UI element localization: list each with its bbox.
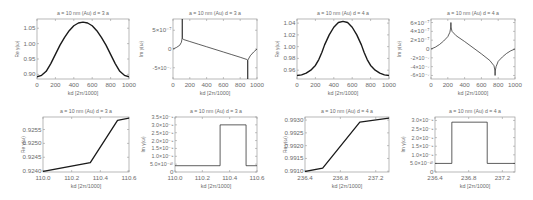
y-tick-label: 1.02 xyxy=(283,31,296,38)
y-tick-label: -2×10⁻⁷ xyxy=(411,55,430,61)
x-tick-label: 200 xyxy=(185,81,196,88)
chart-title: a = 10 nm (Au) d = 4 a xyxy=(449,108,501,114)
chart-panel-p5: a = 10 nm (Au) d = 3 a110.0110.2110.4110… xyxy=(21,108,137,189)
chart-panel-p1: a = 10 nm (Au) d = 3 a020040060080010000… xyxy=(15,10,136,96)
x-tick-label: 236.8 xyxy=(333,174,349,181)
y-tick-label: -6×10⁻⁷ xyxy=(411,72,430,78)
y-tick-label: 1.0×10⁻⁹ xyxy=(412,152,434,158)
y-tick-label: 0.95 xyxy=(23,55,36,62)
x-tick-label: 400 xyxy=(201,81,212,88)
y-tick-label: 0.9910 xyxy=(285,167,304,174)
data-series-line xyxy=(173,19,257,79)
x-tick-label: 600 xyxy=(476,81,487,88)
y-tick-label: 1.00 xyxy=(283,43,296,50)
x-tick-label: 800 xyxy=(235,81,246,88)
chart-panel-p2: a = 10 nm (Au) d = 3 a020040060080010005… xyxy=(139,10,264,96)
y-axis-label: Re γ(ω) xyxy=(275,40,280,57)
chart-title: a = 10 nm (Au) d = 3 a xyxy=(190,108,242,114)
x-tick-label: 1000 xyxy=(508,81,522,88)
plot-frame xyxy=(37,19,129,79)
x-tick-label: 110.0 xyxy=(35,174,51,181)
y-tick-label: 0 xyxy=(426,45,430,52)
y-axis-label: Re γ(ω) xyxy=(15,40,20,57)
y-tick-label: 1.0×10⁻⁹ xyxy=(152,153,174,159)
plot-frame xyxy=(431,19,515,79)
y-tick-label: 0.90 xyxy=(23,70,36,77)
y-tick-label: 3.0×10⁻⁹ xyxy=(412,117,434,123)
y-tick-label: 2.0×10⁻⁹ xyxy=(152,138,174,144)
y-axis-label: Re γ(ω) xyxy=(21,136,26,153)
x-tick-label: 800 xyxy=(365,81,376,88)
y-tick-label: 1.00 xyxy=(23,40,36,47)
x-tick-label: 1000 xyxy=(250,81,264,88)
x-axis-label: kd [2π/1000] xyxy=(201,183,232,189)
y-tick-label: -4×10⁻⁷ xyxy=(411,64,430,70)
x-tick-label: 200 xyxy=(50,81,61,88)
data-series-line xyxy=(37,22,129,77)
x-tick-label: 1000 xyxy=(382,81,396,88)
y-axis-label: Im γ(ω) xyxy=(397,41,402,57)
chart-title: a = 10 nm (Au) d = 4 a xyxy=(321,108,373,114)
y-tick-label: 2×10⁻⁷ xyxy=(410,36,429,43)
x-tick-label: 0 xyxy=(171,81,175,88)
x-tick-label: 110.4 xyxy=(93,174,109,181)
x-axis-label: kd [2π/1000] xyxy=(328,90,359,96)
plot-frame xyxy=(173,19,257,79)
x-tick-label: 110.6 xyxy=(121,174,137,181)
y-tick-label: 1.05 xyxy=(23,24,36,31)
x-tick-label: 0 xyxy=(35,81,39,88)
x-tick-label: 110.2 xyxy=(195,174,211,181)
chart-panel-p8: a = 10 nm (Au) d = 4 a236.4236.8237.205.… xyxy=(401,108,515,189)
y-tick-label: 0.9915 xyxy=(285,154,304,161)
plot-frame xyxy=(175,117,257,172)
x-tick-label: 400 xyxy=(69,81,80,88)
x-tick-label: 600 xyxy=(347,81,358,88)
y-tick-label: 0.96 xyxy=(283,66,296,73)
y-axis-label: Re γ(ω) xyxy=(283,136,288,153)
x-tick-label: 0 xyxy=(429,81,433,88)
y-tick-label: -5×10⁻⁷ xyxy=(153,65,172,71)
data-series-line xyxy=(435,122,515,163)
x-tick-label: 1000 xyxy=(122,81,136,88)
chart-title: a = 10 nm (Au) d = 4 a xyxy=(447,10,499,16)
y-tick-label: 0.9255 xyxy=(23,126,42,133)
x-tick-label: 600 xyxy=(87,81,98,88)
data-series-line xyxy=(297,21,389,75)
y-tick-label: 2.5×10⁻⁹ xyxy=(412,126,434,132)
x-axis-label: kd [2π/1000] xyxy=(200,90,231,96)
plot-frame xyxy=(305,117,389,172)
y-axis-label: Im γ(ω) xyxy=(141,136,146,152)
x-tick-label: 800 xyxy=(493,81,504,88)
chart-panel-p4: a = 10 nm (Au) d = 4 a020040060080010006… xyxy=(397,10,522,96)
y-tick-label: 1.04 xyxy=(283,19,296,26)
chart-title: a = 10 nm (Au) d = 3 a xyxy=(57,10,109,16)
y-tick-label: 0.9240 xyxy=(23,167,42,174)
y-tick-label: 2.0×10⁻⁹ xyxy=(412,135,434,141)
y-tick-label: 0 xyxy=(430,168,434,175)
x-tick-label: 236.4 xyxy=(297,174,313,181)
data-series-line xyxy=(43,118,129,171)
x-tick-label: 0 xyxy=(295,81,299,88)
x-tick-label: 200 xyxy=(443,81,454,88)
y-tick-label: 5.0×10⁻¹⁰ xyxy=(410,160,433,166)
y-tick-label: 0 xyxy=(168,45,172,52)
figure-canvas: a = 10 nm (Au) d = 3 a020040060080010000… xyxy=(0,0,533,200)
x-tick-label: 237.2 xyxy=(495,174,511,181)
x-tick-label: 236.8 xyxy=(461,174,477,181)
x-tick-label: 400 xyxy=(329,81,340,88)
chart-panel-p3: a = 10 nm (Au) d = 4 a020040060080010000… xyxy=(275,10,396,96)
x-axis-label: kd [2π/1000] xyxy=(458,90,489,96)
y-tick-label: 3.0×10⁻⁹ xyxy=(152,122,174,128)
x-axis-label: kd [2π/1000] xyxy=(71,183,102,189)
x-tick-label: 110.6 xyxy=(249,174,265,181)
y-tick-label: 0.9245 xyxy=(23,153,42,160)
x-axis-label: kd [2π/1000] xyxy=(460,183,491,189)
x-tick-label: 200 xyxy=(310,81,321,88)
y-tick-label: 2.5×10⁻⁹ xyxy=(152,130,174,136)
chart-panel-p7: a = 10 nm (Au) d = 4 a236.4236.8237.20.9… xyxy=(283,108,389,189)
x-axis-label: kd [2π/1000] xyxy=(332,183,363,189)
x-tick-label: 110.4 xyxy=(222,174,238,181)
x-tick-label: 800 xyxy=(105,81,116,88)
y-tick-label: 1.5×10⁻⁹ xyxy=(152,145,174,151)
y-tick-label: 4×10⁻⁷ xyxy=(410,27,429,34)
